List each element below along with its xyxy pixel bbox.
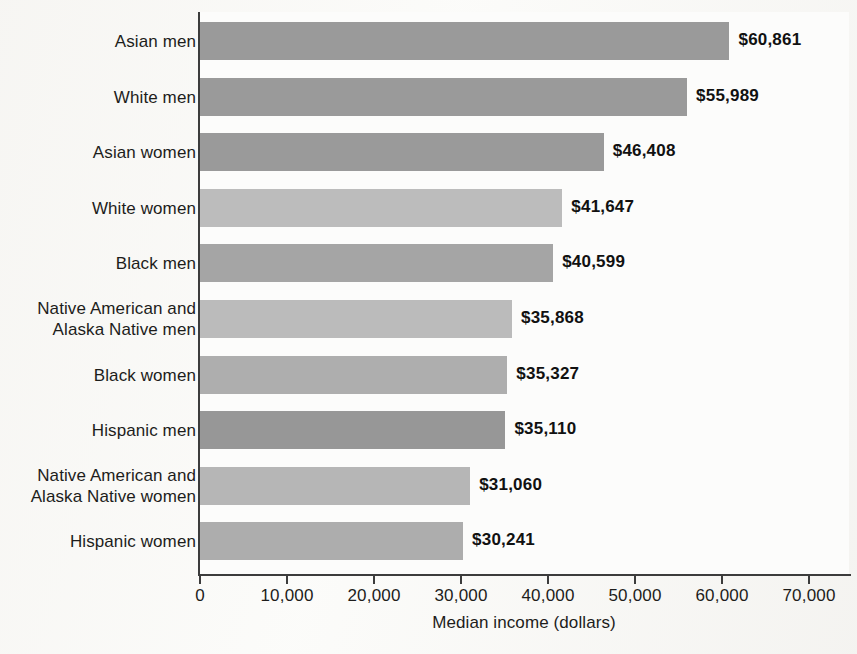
bar-value-label: $40,599	[562, 252, 625, 272]
x-axis-tick-label: 20,000	[347, 586, 400, 606]
x-axis-tick	[808, 576, 810, 584]
bar-row: White men$55,989	[0, 78, 857, 116]
x-axis-tick	[460, 576, 462, 584]
category-label-line: Hispanic men	[0, 420, 196, 441]
x-axis-tick	[373, 576, 375, 584]
category-label-line: White men	[0, 87, 196, 108]
bar-value-label: $41,647	[571, 197, 634, 217]
x-axis-tick	[547, 576, 549, 584]
category-label: Hispanic women	[0, 531, 196, 552]
category-label: Native American andAlaska Native women	[0, 465, 196, 507]
bar-value-label: $35,868	[521, 308, 584, 328]
category-label-line: Alaska Native women	[0, 486, 196, 507]
bar-value-label: $35,110	[514, 419, 576, 439]
bar-row: Native American andAlaska Native women$3…	[0, 467, 857, 505]
bar	[200, 133, 604, 171]
x-axis-tick-label: 60,000	[695, 586, 748, 606]
bar	[200, 244, 553, 282]
category-label-line: Asian women	[0, 142, 196, 163]
category-label-line: Black men	[0, 253, 196, 274]
category-label-line: Alaska Native men	[0, 319, 196, 340]
bar-chart: Asian men$60,861White men$55,989Asian wo…	[0, 0, 857, 654]
x-axis-line	[198, 574, 851, 576]
bar-value-label: $31,060	[479, 475, 542, 495]
x-axis-tick-label: 40,000	[521, 586, 574, 606]
x-axis-tick-label: 0	[195, 586, 205, 606]
category-label-line: Hispanic women	[0, 531, 196, 552]
bar-value-label: $30,241	[472, 530, 535, 550]
bar	[200, 22, 729, 60]
x-axis-tick-label: 50,000	[608, 586, 661, 606]
bar	[200, 356, 507, 394]
bar	[200, 78, 687, 116]
category-label: Native American andAlaska Native men	[0, 298, 196, 340]
x-axis-tick	[634, 576, 636, 584]
category-label-line: Native American and	[0, 465, 196, 486]
bar	[200, 300, 512, 338]
category-label: White men	[0, 87, 196, 108]
x-axis-tick-label: 30,000	[434, 586, 487, 606]
bar-value-label: $35,327	[516, 364, 579, 384]
category-label-line: Black women	[0, 365, 196, 386]
category-label: Asian men	[0, 31, 196, 52]
category-label-line: White women	[0, 198, 196, 219]
bar-value-label: $55,989	[696, 86, 759, 106]
bar-row: Black men$40,599	[0, 244, 857, 282]
category-label: Hispanic men	[0, 420, 196, 441]
bar-row: Hispanic women$30,241	[0, 522, 857, 560]
bar-row: Asian men$60,861	[0, 22, 857, 60]
category-label: Black women	[0, 365, 196, 386]
x-axis-tick	[721, 576, 723, 584]
bar	[200, 467, 470, 505]
x-axis-title: Median income (dollars)	[199, 613, 849, 633]
bar	[200, 522, 463, 560]
bar-value-label: $46,408	[613, 141, 676, 161]
bar	[200, 189, 562, 227]
x-axis-tick	[286, 576, 288, 584]
category-label: Asian women	[0, 142, 196, 163]
category-label: Black men	[0, 253, 196, 274]
chart-page: Asian men$60,861White men$55,989Asian wo…	[0, 0, 857, 654]
x-axis-tick	[199, 576, 201, 584]
bar-row: Black women$35,327	[0, 356, 857, 394]
x-axis-tick-label: 10,000	[260, 586, 313, 606]
category-label: White women	[0, 198, 196, 219]
bar	[200, 411, 505, 449]
bar-row: Native American andAlaska Native men$35,…	[0, 300, 857, 338]
x-axis-tick-label: 70,000	[782, 586, 835, 606]
bar-row: Hispanic men$35,110	[0, 411, 857, 449]
bar-value-label: $60,861	[738, 30, 801, 50]
category-label-line: Native American and	[0, 298, 196, 319]
bar-row: White women$41,647	[0, 189, 857, 227]
category-label-line: Asian men	[0, 31, 196, 52]
bar-row: Asian women$46,408	[0, 133, 857, 171]
